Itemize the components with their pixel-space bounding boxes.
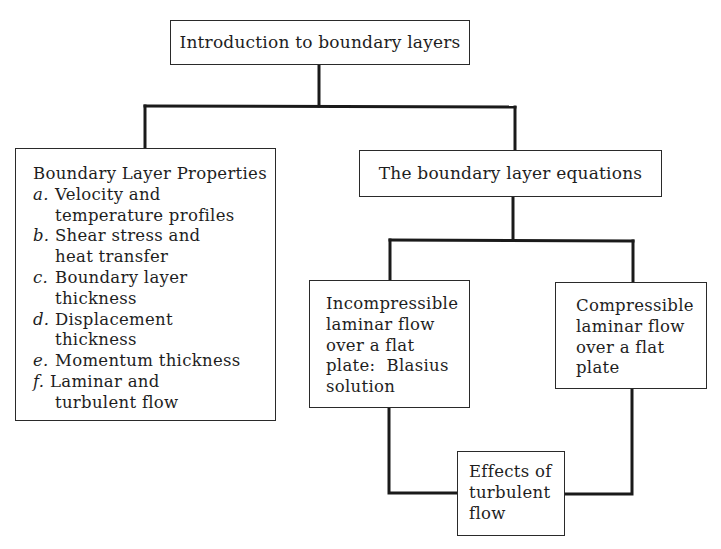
node-equations: The boundary layer equations (359, 150, 662, 197)
incompressible-line: solution (326, 377, 469, 398)
incompressible-line: plate: Blasius (326, 356, 469, 377)
properties-item-b: b. Shear stress andheat transfer (33, 226, 275, 268)
item-text: turbulent flow (55, 393, 179, 414)
incompressible-line: Incompressible (326, 294, 469, 315)
item-letter: a. (33, 185, 55, 227)
node-equations-label: The boundary layer equations (360, 151, 661, 195)
compressible-line: Compressible (576, 296, 706, 317)
item-letter: b. (33, 226, 55, 268)
item-text: Boundary layer (55, 268, 187, 289)
item-text: temperature profiles (55, 206, 235, 227)
edge-incompressible-to-turbulent (389, 407, 457, 493)
compressible-line: over a flat (576, 338, 706, 359)
item-letter: c. (33, 268, 55, 310)
node-introduction: Introduction to boundary layers (170, 20, 470, 65)
item-text: thickness (55, 330, 173, 351)
node-compressible: Compressible laminar flow over a flat pl… (555, 282, 707, 389)
node-incompressible: Incompressible laminar flow over a flat … (309, 280, 470, 408)
item-text: Velocity and (55, 185, 235, 206)
properties-item-c: c. Boundary layerthickness (33, 268, 275, 310)
item-letter: d. (33, 310, 55, 352)
properties-item-a: a. Velocity andtemperature profiles (33, 185, 275, 227)
incompressible-line: over a flat (326, 336, 469, 357)
properties-heading: Boundary Layer Properties (33, 164, 275, 185)
item-text: Momentum thickness (55, 351, 241, 372)
turbulent-line: turbulent (469, 483, 564, 504)
item-letter: e. (33, 351, 55, 372)
node-turbulent: Effects of turbulent flow (457, 451, 565, 536)
node-introduction-label: Introduction to boundary layers (171, 21, 469, 63)
turbulent-line: flow (469, 504, 564, 525)
compressible-line: plate (576, 358, 706, 379)
compressible-line: laminar flow (576, 317, 706, 338)
properties-item-d: d. Displacementthickness (33, 310, 275, 352)
properties-item-e: e. Momentum thickness (33, 351, 275, 372)
incompressible-line: laminar flow (326, 315, 469, 336)
properties-item-f: f. Laminar andturbulent flow (33, 372, 275, 414)
item-letter: f. (33, 372, 50, 414)
item-text: thickness (55, 289, 187, 310)
turbulent-line: Effects of (469, 462, 564, 483)
item-text: Shear stress and (55, 226, 200, 247)
item-text: Laminar and (50, 372, 179, 393)
properties-list: a. Velocity andtemperature profiles b. S… (33, 185, 275, 414)
edge-compressible-to-turbulent (564, 388, 632, 494)
item-text: heat transfer (55, 247, 200, 268)
edge-equations-bar (390, 240, 633, 241)
node-properties: Boundary Layer Properties a. Velocity an… (15, 148, 276, 421)
item-text: Displacement (55, 310, 173, 331)
edge-root-bar (145, 106, 515, 107)
